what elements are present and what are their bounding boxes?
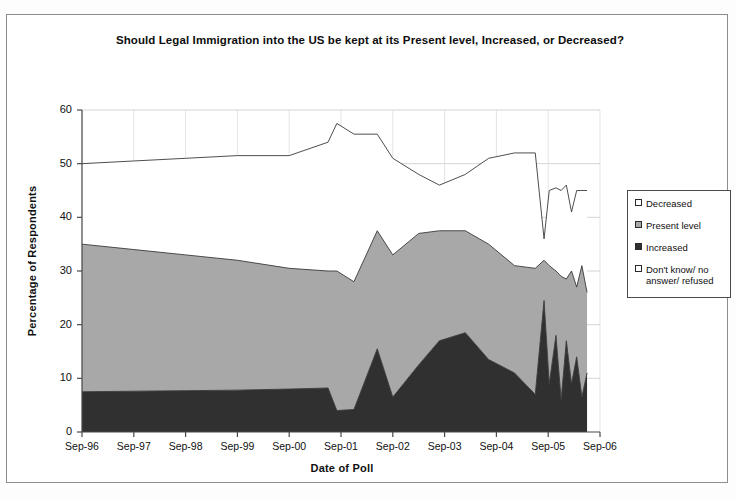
chart-legend: DecreasedPresent levelIncreasedDon't kno… [627, 190, 731, 298]
y-tick-label: 50 [40, 157, 72, 169]
legend-swatch-icon [635, 199, 642, 206]
y-tick-label: 20 [40, 318, 72, 330]
y-tick-label: 10 [40, 371, 72, 383]
legend-label: Present level [646, 220, 728, 231]
legend-item[interactable]: Decreased [635, 198, 730, 209]
legend-label: Don't know/ no answer/ refused [646, 264, 728, 286]
legend-item[interactable]: Don't know/ no answer/ refused [635, 264, 730, 286]
y-tick-label: 30 [40, 264, 72, 276]
plot-area [0, 0, 736, 499]
series-areas [82, 123, 587, 432]
y-tick-label: 60 [40, 103, 72, 115]
legend-swatch-icon [635, 265, 642, 272]
legend-swatch-icon [635, 243, 642, 250]
legend-item[interactable]: Increased [635, 242, 730, 253]
chart-svg [0, 0, 736, 499]
legend-label: Decreased [646, 198, 728, 209]
y-tick-label: 40 [40, 210, 72, 222]
y-tick-label: 0 [40, 425, 72, 437]
chart-page: Should Legal Immigration into the US be … [0, 0, 736, 499]
legend-swatch-icon [635, 221, 642, 228]
legend-label: Increased [646, 242, 728, 253]
x-tick-label: Sep-06 [570, 440, 630, 452]
legend-item[interactable]: Present level [635, 220, 730, 231]
